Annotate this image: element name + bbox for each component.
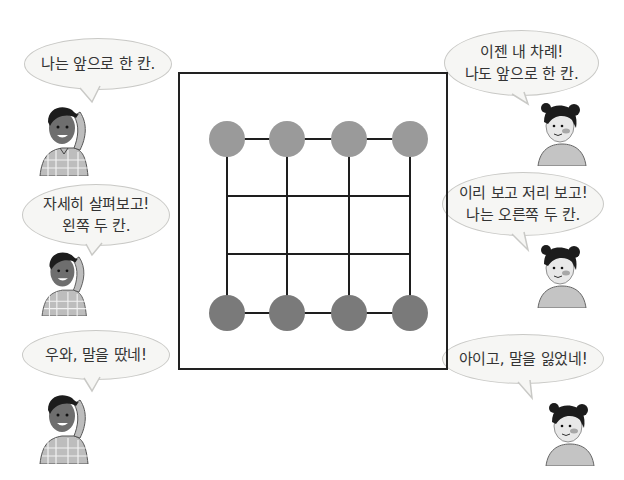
board-grid-lines	[227, 139, 410, 313]
game-piece[interactable]	[331, 121, 367, 157]
game-piece[interactable]	[209, 121, 245, 157]
game-piece[interactable]	[269, 295, 305, 331]
girl-character	[540, 398, 602, 466]
game-piece[interactable]	[392, 295, 428, 331]
game-piece[interactable]	[392, 121, 428, 157]
girl-character	[532, 240, 594, 308]
girl-character	[532, 98, 594, 166]
boy-character	[36, 98, 98, 176]
game-piece[interactable]	[209, 295, 245, 331]
boy-character	[36, 244, 98, 316]
game-piece[interactable]	[331, 295, 367, 331]
boy-character	[36, 386, 98, 464]
game-piece[interactable]	[269, 121, 305, 157]
